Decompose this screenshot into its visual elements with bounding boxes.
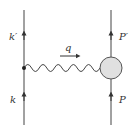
photon-propagator	[24, 65, 100, 72]
label-q: q	[65, 42, 71, 53]
vertex-dot	[22, 66, 26, 70]
label-p: P	[118, 94, 126, 105]
label-k: k	[10, 94, 16, 105]
label-p-prime: P′	[118, 31, 129, 42]
label-k-prime: k′	[9, 31, 18, 42]
feynman-diagram: k′ k P′ P q	[0, 0, 136, 128]
interaction-blob	[100, 57, 122, 79]
